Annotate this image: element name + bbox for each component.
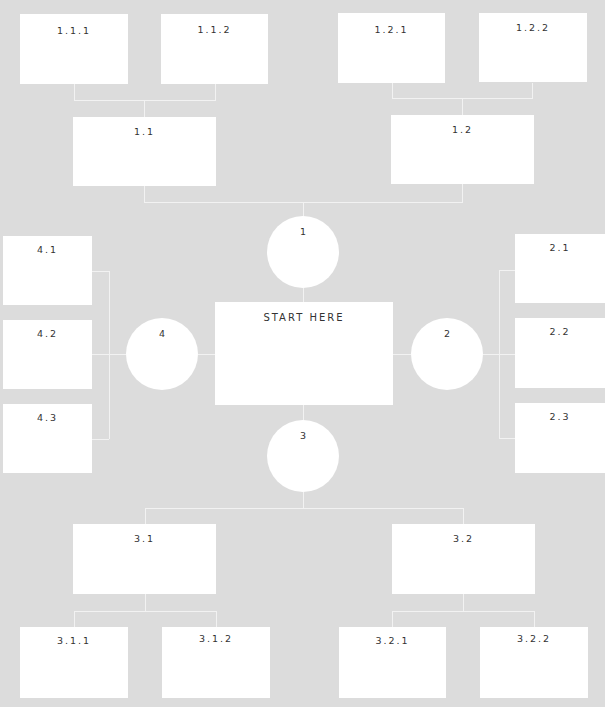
connector xyxy=(92,271,109,272)
connector xyxy=(534,611,535,627)
connector xyxy=(499,354,515,355)
node-2-1: 2.1 xyxy=(515,234,605,303)
node-label: 1.1.1 xyxy=(20,25,128,36)
connector xyxy=(74,100,216,101)
connector xyxy=(462,98,463,115)
node-3-1-1: 3.1.1 xyxy=(20,627,128,698)
node-label: 1.2.2 xyxy=(479,22,587,33)
start-here-label: START HERE xyxy=(215,312,393,323)
node-label: 2.2 xyxy=(515,326,605,337)
connector xyxy=(392,611,535,612)
node-label: 1.1.2 xyxy=(161,24,268,35)
node-label: 4.1 xyxy=(3,244,92,255)
connector xyxy=(109,354,126,355)
hub-label: 1 xyxy=(267,226,339,237)
node-2-3: 2.3 xyxy=(515,403,605,473)
connector xyxy=(74,611,75,627)
connector xyxy=(483,354,499,355)
node-1-1-2: 1.1.2 xyxy=(161,14,268,84)
node-3-1: 3.1 xyxy=(73,524,216,594)
connector xyxy=(145,508,464,509)
node-3-2: 3.2 xyxy=(392,524,535,594)
connector xyxy=(499,270,515,271)
connector xyxy=(92,439,109,440)
start-here-node: START HERE xyxy=(215,302,393,405)
connector xyxy=(216,611,217,627)
hub-1: 1 xyxy=(267,216,339,288)
connector xyxy=(462,184,463,202)
connector xyxy=(145,594,146,611)
connector xyxy=(215,84,216,100)
node-label: 3.2.2 xyxy=(480,633,588,644)
node-label: 3.2 xyxy=(392,533,535,544)
node-4-2: 4.2 xyxy=(3,320,92,389)
connector xyxy=(393,354,411,355)
node-label: 1.2.1 xyxy=(338,24,445,35)
connector xyxy=(74,611,217,612)
connector xyxy=(392,83,393,98)
connector xyxy=(463,508,464,524)
hub-label: 3 xyxy=(267,430,339,441)
hub-label: 4 xyxy=(126,328,198,339)
hub-label: 2 xyxy=(411,328,483,339)
connector xyxy=(198,354,215,355)
node-1-2: 1.2 xyxy=(391,115,534,184)
node-1-2-2: 1.2.2 xyxy=(479,13,587,82)
connector xyxy=(303,202,304,216)
node-3-2-1: 3.2.1 xyxy=(339,627,446,698)
node-label: 4.2 xyxy=(3,328,92,339)
node-label: 1.1 xyxy=(73,126,216,137)
connector xyxy=(92,354,109,355)
connector xyxy=(532,83,533,98)
node-label: 4.3 xyxy=(3,412,92,423)
node-label: 3.1 xyxy=(73,533,216,544)
connector xyxy=(303,288,304,302)
connector xyxy=(109,271,110,439)
node-2-2: 2.2 xyxy=(515,318,605,388)
connector xyxy=(144,100,145,117)
connector xyxy=(144,186,145,202)
connector xyxy=(303,492,304,508)
node-label: 2.1 xyxy=(515,242,605,253)
connector xyxy=(463,594,464,611)
connector xyxy=(74,84,75,100)
hub-2: 2 xyxy=(411,318,483,390)
hub-3: 3 xyxy=(267,420,339,492)
node-1-2-1: 1.2.1 xyxy=(338,13,445,83)
node-label: 3.2.1 xyxy=(339,635,446,646)
connector xyxy=(392,611,393,627)
connector xyxy=(499,438,515,439)
node-1-1: 1.1 xyxy=(73,117,216,186)
hub-4: 4 xyxy=(126,318,198,390)
connector xyxy=(303,405,304,420)
node-3-2-2: 3.2.2 xyxy=(480,627,588,698)
connector xyxy=(145,508,146,524)
node-label: 1.2 xyxy=(391,124,534,135)
node-4-1: 4.1 xyxy=(3,236,92,305)
node-label: 2.3 xyxy=(515,411,605,422)
node-4-3: 4.3 xyxy=(3,404,92,473)
node-3-1-2: 3.1.2 xyxy=(162,627,270,698)
node-label: 3.1.1 xyxy=(20,635,128,646)
node-1-1-1: 1.1.1 xyxy=(20,14,128,84)
node-label: 3.1.2 xyxy=(162,633,270,644)
